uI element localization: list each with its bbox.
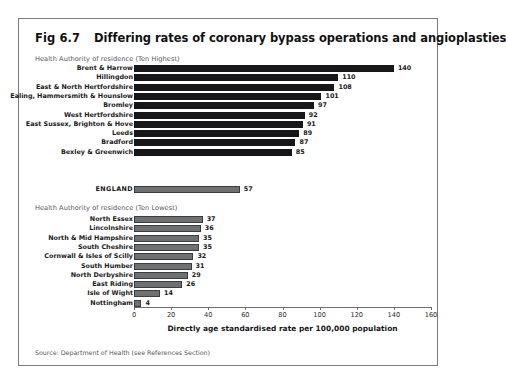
x-tick-label: 140 xyxy=(388,311,401,319)
bar-row: Bromley97 xyxy=(19,101,439,110)
south-humber-label: South Humber xyxy=(81,262,133,271)
nottingham-bar xyxy=(134,300,141,307)
x-tick-label: 80 xyxy=(278,311,286,319)
north-mid-hampshire-label: North & Mid Hampshire xyxy=(48,234,133,243)
bradford-bar xyxy=(134,139,295,146)
lincolnshire-bar xyxy=(134,225,201,232)
bar-row: East Riding26 xyxy=(19,280,439,289)
bromley-bar xyxy=(134,102,314,109)
east-riding-bar xyxy=(134,281,182,288)
hillingdon-value: 110 xyxy=(342,73,355,82)
north-essex-label: North Essex xyxy=(90,215,133,224)
isle-of-wight-value: 14 xyxy=(164,289,173,298)
x-tick-label: 100 xyxy=(313,311,326,319)
bar-row: South Cheshire35 xyxy=(19,243,439,252)
bexley-greenwich-value: 85 xyxy=(296,148,305,157)
ealing-hammersmith-hounslow-bar xyxy=(134,93,321,100)
cornwall-isles-of-scilly-value: 32 xyxy=(197,252,206,261)
cornwall-isles-of-scilly-bar xyxy=(134,253,193,260)
bar-row: Bradford87 xyxy=(19,138,439,147)
north-essex-value: 37 xyxy=(207,215,216,224)
bradford-label: Bradford xyxy=(101,138,133,147)
x-axis-title: Directly age standardised rate per 100,0… xyxy=(134,324,431,333)
north-essex-bar xyxy=(134,216,203,223)
leeds-bar xyxy=(134,130,299,137)
x-tick-label: 40 xyxy=(204,311,212,319)
ealing-hammersmith-hounslow-value: 101 xyxy=(325,92,338,101)
lincolnshire-value: 36 xyxy=(205,224,214,233)
x-tick-mark xyxy=(394,307,395,310)
bradford-value: 87 xyxy=(299,138,308,147)
england-value: 57 xyxy=(244,185,253,194)
east-riding-value: 26 xyxy=(186,280,195,289)
bexley-greenwich-label: Bexley & Greenwich xyxy=(61,148,133,157)
brent-harrow-bar xyxy=(134,65,394,72)
east-north-hertfordshire-bar xyxy=(134,84,334,91)
bar-row: East Sussex, Brighton & Hove91 xyxy=(19,120,439,129)
bar-row: Isle of Wight14 xyxy=(19,289,439,298)
bar-row: North Essex37 xyxy=(19,215,439,224)
west-hertfordshire-label: West Hertfordshire xyxy=(64,111,133,120)
west-hertfordshire-value: 92 xyxy=(309,111,318,120)
nottingham-label: Nottingham xyxy=(90,299,133,308)
x-tick-mark xyxy=(171,307,172,310)
hillingdon-label: Hillingdon xyxy=(96,73,133,82)
west-hertfordshire-bar xyxy=(134,112,305,119)
x-tick-mark xyxy=(283,307,284,310)
source-note: Source: Department of Health (see Refere… xyxy=(35,349,210,356)
bromley-value: 97 xyxy=(318,101,327,110)
x-tick-mark xyxy=(208,307,209,310)
east-sussex-brighton-hove-bar xyxy=(134,121,303,128)
england-label: ENGLAND xyxy=(96,185,133,194)
x-tick-label: 60 xyxy=(241,311,249,319)
bar-row: ENGLAND57 xyxy=(19,185,439,194)
east-north-hertfordshire-label: East & North Hertfordshire xyxy=(36,83,133,92)
south-humber-bar xyxy=(134,263,192,270)
north-derbyshire-value: 29 xyxy=(192,271,201,280)
south-cheshire-label: South Cheshire xyxy=(78,243,133,252)
x-tick-label: 160 xyxy=(425,311,438,319)
bar-row: Brent & Harrow140 xyxy=(19,64,439,73)
east-sussex-brighton-hove-value: 91 xyxy=(307,120,316,129)
isle-of-wight-bar xyxy=(134,290,160,297)
north-mid-hampshire-value: 35 xyxy=(203,234,212,243)
south-humber-value: 31 xyxy=(196,262,205,271)
bar-row: North Derbyshire29 xyxy=(19,271,439,280)
bar-row: North & Mid Hampshire35 xyxy=(19,234,439,243)
leeds-label: Leeds xyxy=(112,129,133,138)
bar-row: Ealing, Hammersmith & Hounslow101 xyxy=(19,92,439,101)
ealing-hammersmith-hounslow-label: Ealing, Hammersmith & Hounslow xyxy=(10,92,133,101)
north-mid-hampshire-bar xyxy=(134,235,199,242)
brent-harrow-value: 140 xyxy=(398,64,411,73)
east-riding-label: East Riding xyxy=(92,280,133,289)
bar-row: Leeds89 xyxy=(19,129,439,138)
leeds-value: 89 xyxy=(303,129,312,138)
x-tick-label: 0 xyxy=(132,311,136,319)
isle-of-wight-label: Isle of Wight xyxy=(87,289,133,298)
x-tick-mark xyxy=(134,307,135,310)
bromley-label: Bromley xyxy=(103,101,133,110)
east-north-hertfordshire-value: 108 xyxy=(338,83,351,92)
x-tick-mark xyxy=(357,307,358,310)
x-tick-label: 20 xyxy=(167,311,175,319)
hillingdon-bar xyxy=(134,74,338,81)
brent-harrow-label: Brent & Harrow xyxy=(77,64,133,73)
north-derbyshire-bar xyxy=(134,272,188,279)
figure-frame: Fig 6.7 Differing rates of coronary bypa… xyxy=(18,18,438,366)
north-derbyshire-label: North Derbyshire xyxy=(71,271,133,280)
bar-row: East & North Hertfordshire108 xyxy=(19,83,439,92)
south-cheshire-bar xyxy=(134,244,199,251)
east-sussex-brighton-hove-label: East Sussex, Brighton & Hove xyxy=(26,120,133,129)
x-tick-label: 120 xyxy=(350,311,363,319)
x-tick-mark xyxy=(320,307,321,310)
bar-row: Lincolnshire36 xyxy=(19,224,439,233)
lincolnshire-label: Lincolnshire xyxy=(89,224,133,233)
south-cheshire-value: 35 xyxy=(203,243,212,252)
bexley-greenwich-bar xyxy=(134,149,292,156)
bar-row: West Hertfordshire92 xyxy=(19,111,439,120)
england-bar xyxy=(134,186,240,193)
bar-row: Cornwall & Isles of Scilly32 xyxy=(19,252,439,261)
bar-row: Hillingdon110 xyxy=(19,73,439,82)
cornwall-isles-of-scilly-label: Cornwall & Isles of Scilly xyxy=(44,252,133,261)
bar-row: Bexley & Greenwich85 xyxy=(19,148,439,157)
